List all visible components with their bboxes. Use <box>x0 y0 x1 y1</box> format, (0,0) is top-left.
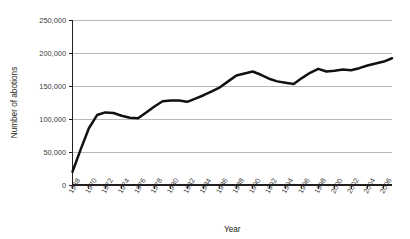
x-tick-label: 1988 <box>230 177 246 195</box>
y-tick-label: 50,000 <box>43 148 66 157</box>
x-tick-label: 1974 <box>116 177 132 195</box>
y-axis-title: Number of abotions <box>10 67 19 138</box>
x-tick-label: 1990 <box>247 177 263 195</box>
x-tick-label: 2006 <box>378 177 394 195</box>
x-tick-label: 1970 <box>83 177 99 195</box>
x-tick-label: 2004 <box>361 177 377 195</box>
chart-canvas: 050,000100,000150,000200,000250,000 1968… <box>0 0 410 239</box>
x-tick-label: 2000 <box>329 177 345 195</box>
y-tick-label: 100,000 <box>39 115 66 124</box>
x-tick-label: 1994 <box>279 177 295 195</box>
x-tick-label: 1978 <box>148 177 164 195</box>
x-tick-label: 2002 <box>345 177 361 195</box>
x-tick-label: 1976 <box>132 177 148 195</box>
x-tick-label: 1982 <box>181 177 197 195</box>
y-tick-label: 250,000 <box>39 16 66 25</box>
x-axis-tick-labels: 1968197019721974197619781980198219841986… <box>66 177 393 195</box>
x-tick-label: 1996 <box>296 177 312 195</box>
x-tick-label: 1980 <box>165 177 181 195</box>
x-tick-label: 1972 <box>99 177 115 195</box>
x-tick-label: 1992 <box>263 177 279 195</box>
y-tick-label: 0 <box>62 181 66 190</box>
x-tick-label: 1986 <box>214 177 230 195</box>
x-tick-label: 1984 <box>198 177 214 195</box>
y-tick-label: 200,000 <box>39 49 66 58</box>
data-series-line <box>73 58 393 172</box>
y-tick-label: 150,000 <box>39 82 66 91</box>
x-tick-label: 1968 <box>66 177 82 195</box>
x-axis-title: Year <box>224 225 241 234</box>
x-tick-label: 1998 <box>312 177 328 195</box>
gridlines-group <box>69 20 392 185</box>
y-axis-tick-labels: 050,000100,000150,000200,000250,000 <box>39 16 66 190</box>
abortions-line-chart: 050,000100,000150,000200,000250,000 1968… <box>0 0 410 239</box>
